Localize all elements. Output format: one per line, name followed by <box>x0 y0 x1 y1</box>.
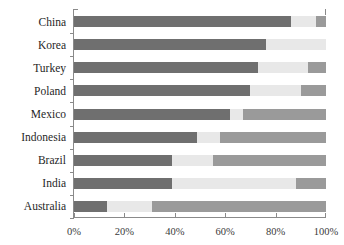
y-axis-category-label: Indonesia <box>0 131 66 143</box>
x-axis-tick <box>175 213 176 218</box>
x-axis-tick <box>276 213 277 218</box>
bar-row <box>74 39 326 50</box>
bar-row <box>74 16 326 27</box>
bar-segment <box>74 85 250 96</box>
plot-area: 0%20%40%60%80%100% <box>74 10 326 218</box>
x-axis-tick <box>124 213 125 218</box>
bar-row <box>74 109 326 120</box>
y-axis-category-label: Brazil <box>0 154 66 166</box>
y-axis-tick <box>70 149 74 150</box>
bar-row <box>74 62 326 73</box>
y-axis-category-label: Australia <box>0 200 66 212</box>
bar-segment <box>213 155 326 166</box>
bar-segment <box>107 201 152 212</box>
x-axis-tick-label: 60% <box>216 226 235 237</box>
y-axis-category-label: Poland <box>0 85 66 97</box>
y-axis-tick <box>70 33 74 34</box>
stacked-bar-chart: 0%20%40%60%80%100% ChinaKoreaTurkeyPolan… <box>0 0 344 245</box>
x-axis-tick-label: 20% <box>115 226 134 237</box>
x-axis-tick <box>325 213 326 218</box>
y-axis-tick <box>70 79 74 80</box>
bar-segment <box>74 132 197 143</box>
x-axis-right-cap <box>325 9 326 15</box>
bar-segment <box>308 62 326 73</box>
y-axis-category-label: Mexico <box>0 108 66 120</box>
bar-segment <box>197 132 220 143</box>
x-axis-tick-label: 100% <box>314 226 339 237</box>
bar-segment <box>301 85 326 96</box>
bar-segment <box>296 178 326 189</box>
bar-row <box>74 132 326 143</box>
bar-segment <box>243 109 326 120</box>
y-axis-category-label: Turkey <box>0 62 66 74</box>
y-axis-tick <box>70 218 74 219</box>
bar-segment <box>291 16 316 27</box>
bar-segment <box>230 109 243 120</box>
bar-segment <box>74 155 172 166</box>
bar-row <box>74 85 326 96</box>
x-axis-line <box>73 217 326 218</box>
y-axis-top-cap <box>73 9 78 10</box>
chart-title <box>0 0 344 3</box>
bar-segment <box>172 155 212 166</box>
bar-row <box>74 201 326 212</box>
bar-segment <box>266 39 326 50</box>
bar-row <box>74 178 326 189</box>
bar-segment <box>258 62 308 73</box>
bar-segment <box>74 201 107 212</box>
x-axis-tick-label: 0% <box>67 226 81 237</box>
bar-segment <box>74 16 291 27</box>
y-axis-tick <box>70 126 74 127</box>
x-axis-tick-label: 80% <box>266 226 285 237</box>
x-axis-tick-label: 40% <box>165 226 184 237</box>
bar-segment <box>250 85 300 96</box>
y-axis-tick <box>70 56 74 57</box>
y-axis-category-label: Korea <box>0 39 66 51</box>
bar-segment <box>316 16 326 27</box>
bar-segment <box>74 109 230 120</box>
bar-segment <box>74 178 172 189</box>
bar-segment <box>220 132 326 143</box>
x-axis-tick <box>225 213 226 218</box>
x-axis-tick <box>74 213 75 218</box>
bar-segment <box>74 62 258 73</box>
y-axis-tick <box>70 172 74 173</box>
y-axis-category-label: China <box>0 16 66 28</box>
y-axis-tick <box>70 195 74 196</box>
bar-segment <box>172 178 295 189</box>
bar-segment <box>152 201 326 212</box>
bar-segment <box>74 39 266 50</box>
y-axis-tick <box>70 102 74 103</box>
bar-row <box>74 155 326 166</box>
y-axis-category-label: India <box>0 177 66 189</box>
